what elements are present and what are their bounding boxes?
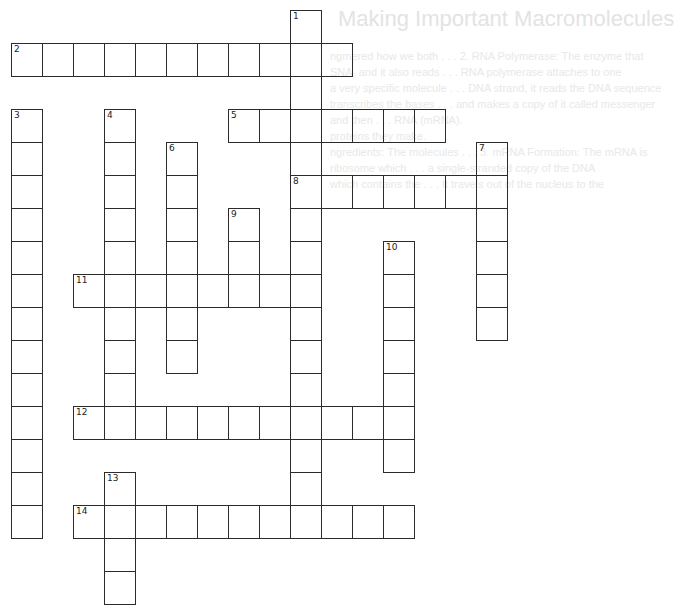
crossword-cell[interactable] [414, 175, 446, 209]
crossword-cell[interactable] [290, 109, 322, 143]
crossword-cell[interactable] [197, 274, 229, 308]
crossword-cell[interactable] [166, 307, 198, 341]
crossword-cell[interactable] [166, 43, 198, 77]
crossword-cell[interactable] [321, 175, 353, 209]
crossword-cell[interactable] [476, 208, 508, 242]
crossword-cell[interactable] [104, 307, 136, 341]
crossword-cell[interactable]: 5 [228, 109, 260, 143]
crossword-cell[interactable] [11, 208, 43, 242]
crossword-cell[interactable] [321, 505, 353, 539]
crossword-cell[interactable] [228, 505, 260, 539]
crossword-cell[interactable] [259, 43, 291, 77]
crossword-cell[interactable] [104, 43, 136, 77]
crossword-cell[interactable] [166, 505, 198, 539]
crossword-cell[interactable] [352, 175, 384, 209]
crossword-cell[interactable] [104, 208, 136, 242]
crossword-cell[interactable]: 7 [476, 142, 508, 176]
crossword-cell[interactable] [290, 76, 322, 110]
crossword-cell[interactable] [290, 373, 322, 407]
crossword-cell[interactable] [11, 505, 43, 539]
crossword-cell[interactable] [166, 274, 198, 308]
crossword-cell[interactable] [352, 406, 384, 440]
crossword-cell[interactable] [228, 274, 260, 308]
crossword-cell[interactable] [73, 43, 105, 77]
crossword-cell[interactable]: 10 [383, 241, 415, 275]
crossword-cell[interactable] [228, 406, 260, 440]
crossword-cell[interactable] [197, 43, 229, 77]
crossword-cell[interactable] [197, 505, 229, 539]
crossword-cell[interactable]: 13 [104, 472, 136, 506]
crossword-cell[interactable] [11, 406, 43, 440]
crossword-cell[interactable] [11, 307, 43, 341]
crossword-cell[interactable] [476, 241, 508, 275]
crossword-cell[interactable] [228, 43, 260, 77]
crossword-cell[interactable]: 9 [228, 208, 260, 242]
crossword-cell[interactable] [166, 175, 198, 209]
crossword-cell[interactable] [11, 373, 43, 407]
crossword-cell[interactable] [104, 571, 136, 605]
crossword-cell[interactable] [290, 43, 322, 77]
crossword-cell[interactable] [383, 109, 415, 143]
crossword-cell[interactable] [166, 406, 198, 440]
crossword-cell[interactable] [383, 505, 415, 539]
crossword-cell[interactable] [383, 274, 415, 308]
crossword-cell[interactable] [104, 142, 136, 176]
crossword-cell[interactable] [11, 142, 43, 176]
crossword-cell[interactable] [166, 340, 198, 374]
crossword-cell[interactable] [135, 43, 167, 77]
crossword-cell[interactable] [104, 175, 136, 209]
crossword-cell[interactable]: 1 [290, 10, 322, 44]
crossword-cell[interactable] [11, 175, 43, 209]
crossword-cell[interactable] [228, 241, 260, 275]
crossword-cell[interactable] [383, 439, 415, 473]
crossword-cell[interactable] [290, 241, 322, 275]
crossword-cell[interactable] [476, 307, 508, 341]
crossword-cell[interactable] [290, 406, 322, 440]
crossword-cell[interactable]: 11 [73, 274, 105, 308]
crossword-cell[interactable] [104, 406, 136, 440]
crossword-cell[interactable] [321, 43, 353, 77]
crossword-cell[interactable]: 2 [11, 43, 43, 77]
crossword-cell[interactable] [135, 406, 167, 440]
crossword-cell[interactable] [259, 274, 291, 308]
crossword-cell[interactable] [290, 307, 322, 341]
crossword-cell[interactable] [352, 505, 384, 539]
crossword-cell[interactable] [42, 43, 74, 77]
crossword-cell[interactable] [11, 472, 43, 506]
crossword-cell[interactable] [383, 340, 415, 374]
crossword-cell[interactable] [11, 274, 43, 308]
crossword-cell[interactable] [166, 241, 198, 275]
crossword-cell[interactable] [476, 274, 508, 308]
crossword-cell[interactable] [11, 340, 43, 374]
crossword-cell[interactable] [197, 406, 229, 440]
crossword-cell[interactable] [259, 109, 291, 143]
crossword-cell[interactable] [352, 109, 384, 143]
crossword-cell[interactable] [104, 274, 136, 308]
crossword-cell[interactable] [290, 274, 322, 308]
crossword-cell[interactable] [104, 241, 136, 275]
crossword-cell[interactable] [414, 109, 446, 143]
crossword-cell[interactable] [321, 406, 353, 440]
crossword-cell[interactable]: 4 [104, 109, 136, 143]
crossword-cell[interactable] [259, 406, 291, 440]
crossword-cell[interactable] [104, 340, 136, 374]
crossword-cell[interactable] [290, 208, 322, 242]
crossword-cell[interactable] [11, 241, 43, 275]
crossword-cell[interactable] [290, 505, 322, 539]
crossword-cell[interactable] [476, 175, 508, 209]
crossword-cell[interactable] [321, 109, 353, 143]
crossword-cell[interactable] [290, 142, 322, 176]
crossword-cell[interactable] [383, 307, 415, 341]
crossword-cell[interactable] [11, 439, 43, 473]
crossword-cell[interactable] [259, 505, 291, 539]
crossword-cell[interactable] [290, 340, 322, 374]
crossword-cell[interactable] [383, 406, 415, 440]
crossword-cell[interactable] [445, 175, 477, 209]
crossword-cell[interactable] [290, 439, 322, 473]
crossword-cell[interactable]: 12 [73, 406, 105, 440]
crossword-cell[interactable] [104, 373, 136, 407]
crossword-cell[interactable] [383, 175, 415, 209]
crossword-cell[interactable] [166, 208, 198, 242]
crossword-cell[interactable] [135, 274, 167, 308]
crossword-cell[interactable] [104, 505, 136, 539]
